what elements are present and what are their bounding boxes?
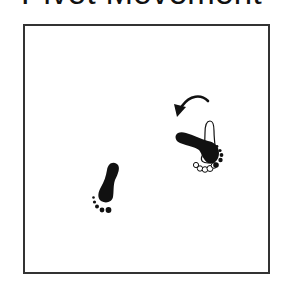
footwork-diagram <box>0 0 283 287</box>
planted-foot-icon <box>92 163 119 213</box>
pivoted-foot-icon <box>176 132 224 168</box>
rotation-arrow-icon <box>174 97 208 117</box>
